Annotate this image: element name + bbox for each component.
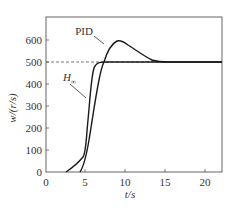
x-tick-label: 10 <box>120 176 132 188</box>
y-axis-label: w/(r/s) <box>6 93 19 123</box>
pid-leader-line <box>94 36 104 44</box>
hinf-curve <box>66 62 222 172</box>
chart: 0 100 200 300 400 500 600 0 5 10 15 20 t… <box>0 0 235 210</box>
x-tick-label: 15 <box>160 176 172 188</box>
y-tick-label: 200 <box>26 122 43 134</box>
x-tick-label: 0 <box>43 176 49 188</box>
y-tick-label: 0 <box>37 166 43 178</box>
hinf-leader-line <box>70 84 86 98</box>
y-tick-label: 100 <box>26 144 43 156</box>
plot-frame <box>46 17 222 172</box>
y-tick-label: 500 <box>26 56 43 68</box>
y-tick-label: 300 <box>26 100 43 112</box>
x-tick-label: 5 <box>82 176 88 188</box>
hinf-label: H∞ <box>62 71 76 86</box>
y-tick-label: 600 <box>26 34 43 46</box>
x-tick-label: 20 <box>200 176 212 188</box>
pid-curve <box>80 41 222 172</box>
y-tick-label: 400 <box>26 78 43 90</box>
pid-label: PID <box>75 25 93 37</box>
x-axis-label: t/s <box>125 188 135 200</box>
y-axis: 0 100 200 300 400 500 600 <box>26 34 50 178</box>
